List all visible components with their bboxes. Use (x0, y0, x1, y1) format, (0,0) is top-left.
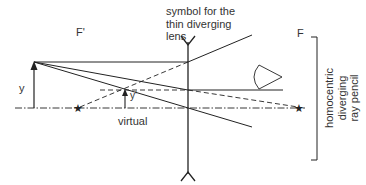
focal-point-star-image-side-icon: ★ (294, 102, 304, 115)
lens-symbol-label: symbol for the thin diverging lens (166, 5, 235, 43)
ray-2-incident (34, 62, 188, 90)
image-type-label: virtual (118, 115, 147, 127)
ray-pencil-label: homocentric diverging ray pencil (323, 68, 361, 128)
ray-pencil-bracket (311, 37, 317, 160)
focal-point-label-object-side: F' (76, 26, 85, 38)
ray-2-dashed-to-focus (188, 90, 298, 107)
focal-point-label-image-side: F (297, 27, 304, 39)
eye-icon (259, 65, 282, 89)
image-height-label: y' (130, 90, 137, 102)
focal-point-star-object-side-icon: ★ (73, 102, 83, 115)
eye-cornea (254, 65, 259, 89)
object-height-label: y (19, 82, 25, 94)
